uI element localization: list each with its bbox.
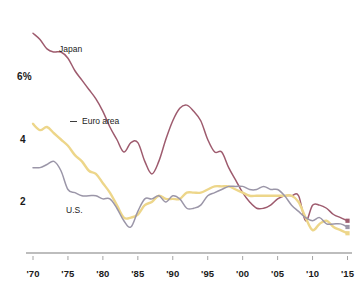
x-axis-tick-2005: '05	[271, 268, 284, 279]
series-label-japan: Japan	[59, 44, 82, 54]
series-line-euro-area	[33, 124, 348, 233]
x-axis-line-group	[26, 253, 352, 260]
x-axis-tick-1970: '70	[26, 268, 39, 279]
series-label-euro-area: Euro area	[82, 116, 119, 126]
x-axis-tick-1985: '85	[131, 268, 144, 279]
x-axis-tick-2000: '00	[236, 268, 249, 279]
x-axis-tick-2010: '10	[306, 268, 319, 279]
series-label-us: U.S.	[66, 205, 83, 215]
end-marker-euro-area	[345, 231, 349, 235]
x-axis-tick-1975: '75	[61, 268, 74, 279]
x-axis-tick-1995: '95	[201, 268, 214, 279]
chart-container: 6% 4 2 '70 '75 '80 '85 '90 '95 '00 '05 '…	[0, 0, 360, 294]
x-axis-tick-1990: '90	[166, 268, 179, 279]
x-axis-tick-1980: '80	[96, 268, 109, 279]
y-axis-tick-4: 4	[20, 134, 26, 145]
euro-area-legend-dash-icon	[70, 121, 77, 122]
end-marker-u-s	[345, 225, 349, 229]
series-line-u-s	[33, 161, 348, 227]
y-axis-tick-2: 2	[20, 196, 26, 207]
end-marker-japan	[345, 219, 349, 223]
x-axis-tick-2015: '15	[341, 268, 354, 279]
y-axis-tick-6pct: 6%	[17, 71, 32, 82]
line-chart-plot	[0, 0, 360, 294]
